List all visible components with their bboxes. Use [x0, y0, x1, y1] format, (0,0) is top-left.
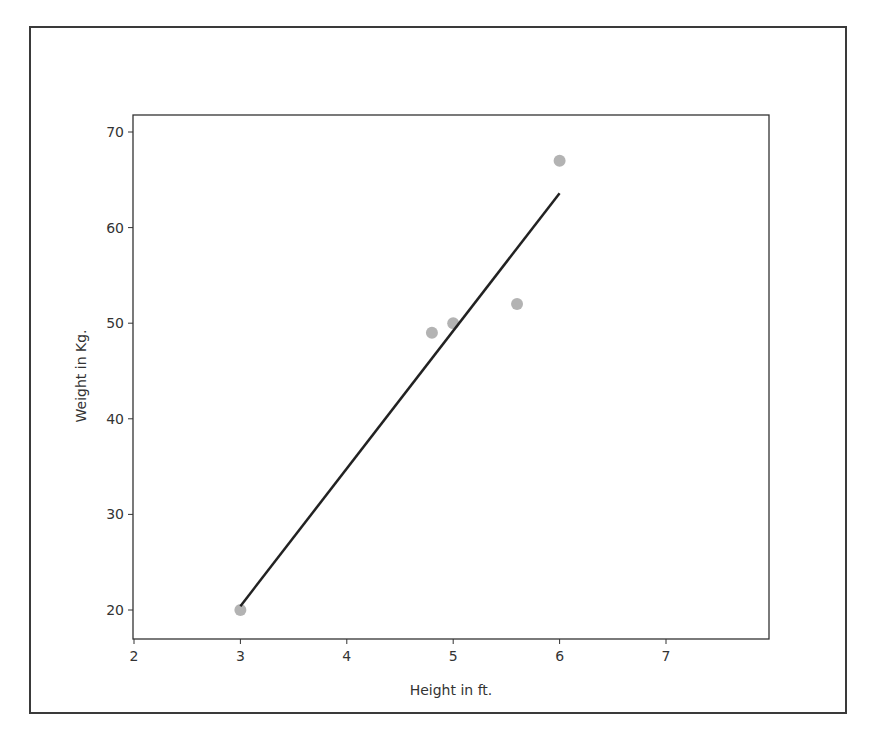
x-tick-label: 6 — [555, 648, 564, 664]
axes-box — [133, 115, 769, 639]
y-axis: 203040506070 — [106, 124, 133, 618]
y-tick-label: 70 — [106, 124, 124, 140]
scatter-chart: 234567 203040506070 Height in ft. Weight… — [0, 0, 878, 742]
y-tick-label: 30 — [106, 506, 124, 522]
data-point — [426, 327, 438, 339]
y-tick-label: 20 — [106, 602, 124, 618]
x-tick-label: 4 — [342, 648, 351, 664]
data-point — [511, 298, 523, 310]
plot-area — [133, 115, 769, 639]
regression-line — [240, 193, 559, 606]
data-point — [554, 155, 566, 167]
x-axis: 234567 — [130, 639, 671, 664]
x-axis-label: Height in ft. — [410, 682, 493, 698]
y-tick-label: 60 — [106, 220, 124, 236]
x-tick-label: 7 — [662, 648, 671, 664]
x-tick-label: 2 — [130, 648, 139, 664]
y-axis-label: Weight in Kg. — [73, 330, 89, 423]
x-tick-label: 5 — [449, 648, 458, 664]
y-tick-label: 40 — [106, 411, 124, 427]
y-tick-label: 50 — [106, 315, 124, 331]
x-tick-label: 3 — [236, 648, 245, 664]
